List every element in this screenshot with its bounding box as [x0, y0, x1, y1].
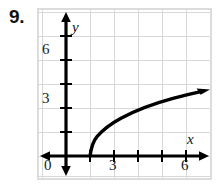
- problem-number: 9.: [9, 7, 24, 26]
- coordinate-graph: [39, 10, 210, 178]
- y-axis-variable-label: y: [72, 20, 79, 35]
- figure-container: 9.: [0, 0, 220, 188]
- x-axis-tick-label-6: 6: [181, 158, 189, 173]
- x-axis-tick-label-3: 3: [109, 158, 117, 173]
- y-axis-tick-label-3: 3: [42, 91, 50, 106]
- x-axis-variable-label: x: [187, 132, 194, 147]
- y-axis-tick-label-6: 6: [42, 42, 50, 57]
- graph-frame: 6 3 3 6 0 y x: [37, 8, 212, 180]
- origin-label: 0: [44, 158, 52, 173]
